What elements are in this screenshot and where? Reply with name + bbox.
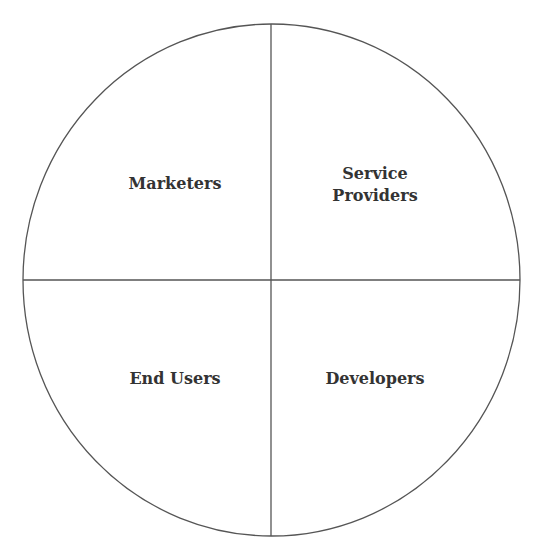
quadrant-label-service-providers: Service Providers: [300, 163, 450, 207]
quadrant-circle-diagram: [0, 0, 534, 554]
quadrant-label-developers: Developers: [300, 368, 450, 390]
quadrant-label-end-users: End Users: [110, 368, 240, 390]
quadrant-label-marketers: Marketers: [110, 173, 240, 195]
